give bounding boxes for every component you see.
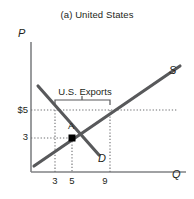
exports-bracket <box>55 100 110 105</box>
equilibrium-point-marker <box>69 135 76 142</box>
supply-curve-label: S <box>169 64 176 76</box>
y-tick-label-5: $5 <box>4 104 28 115</box>
x-tick-label-3: 3 <box>46 175 64 186</box>
equilibrium-point-label: A <box>68 120 74 131</box>
y-axis-label: P <box>18 27 25 39</box>
demand-curve-label: D <box>98 152 106 164</box>
supply-curve <box>34 66 180 166</box>
supply-demand-plot <box>0 0 194 199</box>
x-tick-label-9: 9 <box>96 175 114 186</box>
y-tick-label-3: 3 <box>4 131 28 142</box>
x-tick-label-5: 5 <box>63 175 81 186</box>
economics-figure: (a) United States P Q S D A U.S. Exports… <box>0 0 194 199</box>
x-axis-label: Q <box>172 168 181 180</box>
exports-annotation-label: U.S. Exports <box>40 86 130 97</box>
